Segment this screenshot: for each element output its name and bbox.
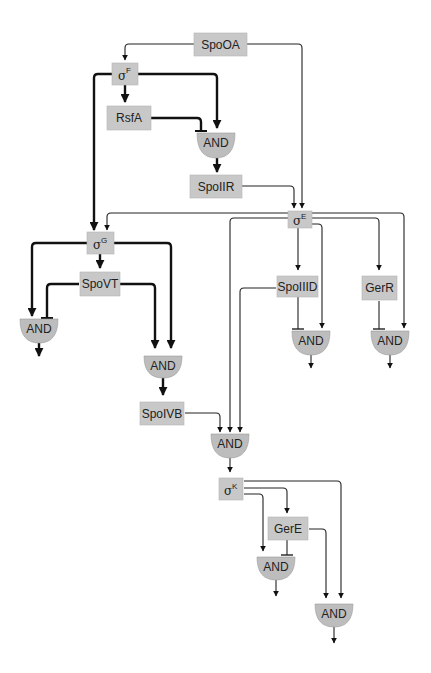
node-label: σ: [293, 214, 301, 228]
node-superscript: F: [126, 66, 131, 75]
node-label: SpoIIR: [198, 180, 235, 194]
node-superscript: K: [232, 482, 238, 491]
node-rsfa: RsfA: [107, 106, 151, 130]
and-gate-sigma-k-input: AND: [211, 434, 249, 458]
node-superscript: G: [101, 236, 107, 245]
gate-label: AND: [203, 136, 229, 150]
node-label: GerR: [365, 281, 394, 295]
node-label: RsfA: [116, 111, 142, 125]
gate-label: AND: [26, 322, 52, 336]
and-gate-sigma-g-mid: AND: [144, 356, 182, 378]
node-sigma-k: σ K: [219, 478, 243, 500]
node-label: SpoIIID: [277, 280, 317, 294]
node-spoiir: SpoIIR: [190, 175, 242, 198]
node-sigma-f: σ F: [112, 63, 138, 85]
node-sigma-g: σ G: [87, 232, 114, 254]
gate-label: AND: [377, 334, 403, 348]
and-gate-sigma-g-left: AND: [20, 319, 58, 343]
node-spoiiid: SpoIIID: [277, 276, 318, 297]
gate-label: AND: [217, 437, 243, 451]
node-spo0a: SpoOA: [194, 33, 247, 56]
gate-label: AND: [150, 359, 176, 373]
node-label: σ: [93, 238, 101, 252]
regulatory-network-diagram: SpoOA σ F RsfA SpoIIR σ E σ G SpoVT SpoI…: [0, 0, 431, 673]
gate-label: AND: [321, 607, 347, 621]
gate-label: AND: [298, 334, 324, 348]
node-spoivb: SpoIVB: [140, 402, 184, 425]
node-label: σ: [224, 484, 232, 498]
node-label: SpoOA: [201, 38, 240, 52]
node-gere: GerE: [268, 517, 308, 540]
gate-label: AND: [263, 560, 289, 574]
node-label: SpoVT: [82, 277, 119, 291]
node-spovt: SpoVT: [80, 272, 120, 296]
node-label: σ: [118, 69, 126, 83]
node-gerr: GerR: [362, 276, 397, 300]
node-sigma-e: σ E: [288, 211, 312, 228]
node-label: GerE: [274, 522, 302, 536]
node-label: SpoIVB: [142, 407, 183, 421]
and-gate-sigma-e-2: AND: [371, 331, 409, 355]
and-gate-sigma-k-1: AND: [257, 557, 295, 580]
and-gate-sigma-e-1: AND: [292, 331, 330, 355]
node-superscript: E: [301, 212, 306, 221]
and-gate-sigma-k-2: AND: [315, 604, 353, 627]
and-gate-sigma-f: AND: [197, 133, 235, 158]
